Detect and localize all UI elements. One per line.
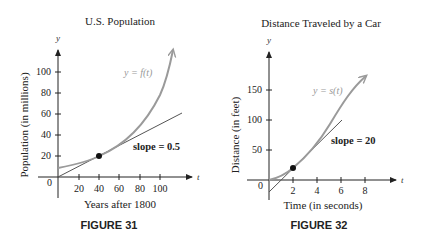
- figure-caption: FIGURE 32: [291, 219, 348, 231]
- y-tick-label: 100: [247, 114, 262, 125]
- origin-label: 0: [47, 177, 52, 188]
- y-tick-label: 80: [41, 87, 51, 98]
- x-tick-label: 20: [74, 183, 84, 194]
- y-tick-label: 60: [41, 108, 51, 119]
- x-variable-label: t: [401, 175, 404, 185]
- x-tick-label: 4: [315, 185, 320, 196]
- figures-canvas: U.S. Population y t 0 20 40 60 80 100 20…: [0, 0, 423, 242]
- x-tick-label: 100: [153, 183, 168, 194]
- curve-label: y = f(t): [123, 67, 153, 79]
- x-variable-label: t: [197, 172, 200, 182]
- figure-32: Distance Traveled by a Car y t 0 50 100 …: [229, 17, 404, 231]
- x-tick-label: 2: [291, 185, 296, 196]
- x-tick-label: 8: [363, 185, 368, 196]
- x-tick-label: 40: [94, 183, 104, 194]
- y-variable-label: y: [266, 35, 271, 45]
- x-tick-label: 6: [339, 185, 344, 196]
- y-tick-label: 150: [247, 84, 262, 95]
- chart-title: Distance Traveled by a Car: [261, 17, 381, 29]
- y-variable-label: y: [55, 33, 60, 43]
- slope-label: slope = 20: [331, 135, 376, 146]
- figure-31: U.S. Population y t 0 20 40 60 80 100 20…: [18, 15, 200, 231]
- y-tick-label: 100: [36, 66, 51, 77]
- y-tick-label: 50: [252, 144, 262, 155]
- x-axis-label: Time (in seconds): [283, 199, 362, 212]
- slope-label: slope = 0.5: [133, 141, 180, 152]
- origin-label: 0: [258, 180, 263, 191]
- y-axis-label: Distance (in feet): [229, 96, 242, 173]
- y-axis-label: Population (in millions): [18, 72, 31, 177]
- y-ticks: 50 100 150: [247, 84, 272, 155]
- y-tick-label: 20: [41, 150, 51, 161]
- curve-label: y = s(t): [312, 85, 343, 97]
- tangent-point: [96, 153, 102, 159]
- y-tick-label: 40: [41, 129, 51, 140]
- y-ticks: 20 40 60 80 100: [36, 66, 61, 161]
- tangent-point: [290, 165, 296, 171]
- x-tick-label: 80: [135, 183, 145, 194]
- figure-caption: FIGURE 31: [81, 219, 138, 231]
- x-axis-label: Years after 1800: [84, 198, 157, 210]
- x-tick-label: 60: [114, 183, 124, 194]
- chart-title: U.S. Population: [85, 15, 155, 27]
